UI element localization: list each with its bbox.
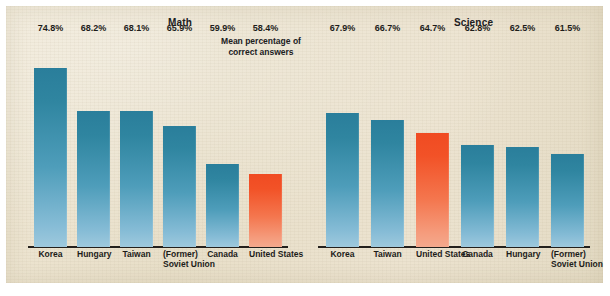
science-category-label-line2: Soviet Union [551, 259, 584, 269]
math-bar [206, 164, 239, 247]
science-category-label: Korea [326, 249, 359, 279]
science-bar [416, 133, 449, 247]
science-bar [326, 113, 359, 247]
math-bar [34, 68, 67, 247]
math-bar-column: 65.9% [163, 35, 196, 247]
science-category-label: (Former)Soviet Union [551, 249, 584, 279]
science-category-label: Hungary [506, 249, 539, 279]
science-category-label-line1: Taiwan [373, 249, 401, 259]
math-bar [249, 174, 282, 247]
math-category-label-line1: Taiwan [122, 249, 150, 259]
math-bar-value-label: 59.9% [210, 23, 236, 33]
math-category-label: Korea [34, 249, 67, 279]
science-bar [551, 154, 584, 247]
math-category-label: Taiwan [120, 249, 153, 279]
math-category-label-line1: Korea [38, 249, 62, 259]
science-category-labels: KoreaTaiwanUnited StatesCanadaHungary(Fo… [314, 249, 596, 279]
math-bar-column: 68.2% [77, 35, 110, 247]
math-bar-value-label: 68.1% [124, 23, 150, 33]
math-category-label-line2: Soviet Union [163, 259, 196, 269]
science-bar-column: 61.5% [551, 35, 584, 247]
science-category-label: United States [416, 249, 449, 279]
science-bar [371, 120, 404, 247]
science-bar [461, 145, 494, 247]
math-bar-value-label: 58.4% [253, 23, 279, 33]
science-category-label-line1: Hungary [506, 249, 540, 259]
math-bar-column: 59.9% [206, 35, 239, 247]
math-bar-value-label: 74.8% [38, 23, 64, 33]
math-bar [77, 111, 110, 247]
science-category-label: Taiwan [371, 249, 404, 279]
math-bar-column: 58.4% [249, 35, 282, 247]
math-category-labels: KoreaHungaryTaiwan(Former)Soviet UnionCa… [22, 249, 294, 279]
science-category-label-line1: (Former) [551, 249, 586, 259]
science-bars: 67.9%66.7%64.7%62.8%62.5%61.5% [314, 35, 596, 247]
math-bar-value-label: 65.9% [167, 23, 193, 33]
math-bar-column: 74.8% [34, 35, 67, 247]
science-category-label: Canada [461, 249, 494, 279]
science-bar-value-label: 64.7% [420, 23, 446, 33]
chart-panel: Math Science Mean percentage of correct … [6, 6, 603, 283]
math-category-label: Hungary [77, 249, 110, 279]
math-category-label-line1: (Former) [163, 249, 198, 259]
science-category-label-line1: Canada [462, 249, 493, 259]
math-category-label: United States [249, 249, 282, 279]
math-category-label: Canada [206, 249, 239, 279]
math-bar [163, 126, 196, 247]
science-bar-value-label: 67.9% [330, 23, 356, 33]
science-bar-value-label: 62.8% [465, 23, 491, 33]
math-bars: 74.8%68.2%68.1%65.9%59.9%58.4% [22, 35, 294, 247]
science-bar-value-label: 61.5% [555, 23, 581, 33]
math-category-label: (Former)Soviet Union [163, 249, 196, 279]
math-category-label-line1: Hungary [77, 249, 111, 259]
science-bar-column: 64.7% [416, 35, 449, 247]
math-bar-group: 74.8%68.2%68.1%65.9%59.9%58.4% KoreaHung… [22, 6, 294, 283]
science-bar-value-label: 66.7% [375, 23, 401, 33]
science-bar [506, 147, 539, 247]
science-bar-column: 62.5% [506, 35, 539, 247]
math-category-label-line1: United States [249, 249, 303, 259]
math-bar-value-label: 68.2% [81, 23, 107, 33]
science-bar-column: 67.9% [326, 35, 359, 247]
math-category-label-line1: Canada [207, 249, 238, 259]
science-bar-column: 62.8% [461, 35, 494, 247]
science-bar-column: 66.7% [371, 35, 404, 247]
math-bar-column: 68.1% [120, 35, 153, 247]
math-bar [120, 111, 153, 247]
science-category-label-line1: Korea [330, 249, 354, 259]
chart-page: Math Science Mean percentage of correct … [0, 0, 610, 296]
science-bar-value-label: 62.5% [510, 23, 536, 33]
science-bar-group: 67.9%66.7%64.7%62.8%62.5%61.5% KoreaTaiw… [314, 6, 596, 283]
